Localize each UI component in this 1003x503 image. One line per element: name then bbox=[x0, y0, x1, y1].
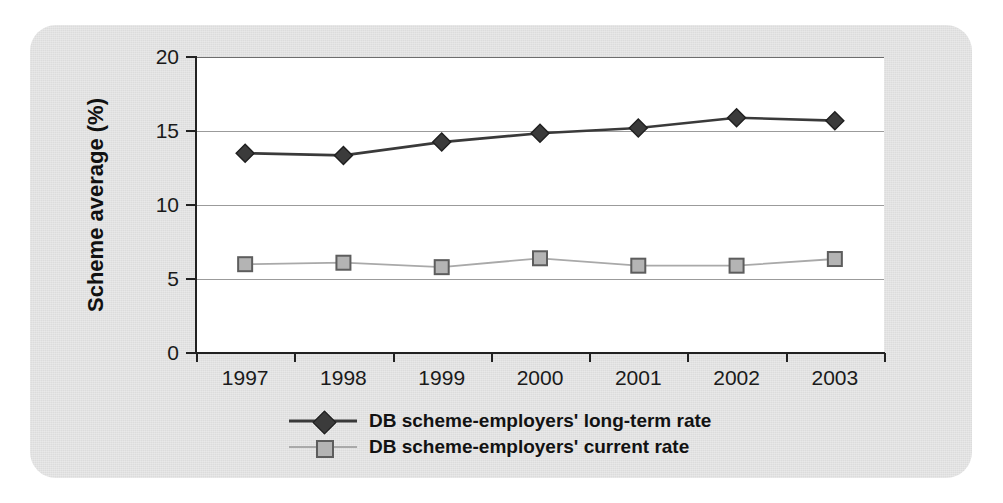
data-point-diamond bbox=[236, 144, 254, 162]
data-point-square bbox=[238, 257, 252, 271]
legend-item-long-term-rate: DB scheme-employers' long-term rate bbox=[287, 408, 807, 434]
chart-legend: DB scheme-employers' long-term rate DB s… bbox=[287, 408, 807, 460]
data-point-square bbox=[730, 259, 744, 273]
data-point-diamond bbox=[433, 133, 451, 151]
data-point-square bbox=[828, 252, 842, 266]
data-point-diamond bbox=[629, 119, 647, 137]
data-point-diamond bbox=[728, 109, 746, 127]
series-long-term-rate bbox=[236, 109, 844, 165]
data-point-diamond bbox=[531, 124, 549, 142]
legend-label: DB scheme-employers' long-term rate bbox=[369, 410, 711, 432]
data-point-diamond bbox=[826, 112, 844, 130]
chart-page: 05101520 1997199819992000200120022003 Sc… bbox=[0, 0, 1003, 503]
square-marker-icon bbox=[287, 435, 359, 459]
diamond-marker-icon bbox=[287, 409, 359, 433]
series-current-rate bbox=[238, 251, 842, 274]
data-point-square bbox=[631, 259, 645, 273]
data-point-diamond bbox=[334, 146, 352, 164]
data-point-square bbox=[435, 260, 449, 274]
legend-item-current-rate: DB scheme-employers' current rate bbox=[287, 434, 807, 460]
data-point-square bbox=[336, 256, 350, 270]
legend-label: DB scheme-employers' current rate bbox=[369, 436, 689, 458]
data-point-square bbox=[533, 251, 547, 265]
